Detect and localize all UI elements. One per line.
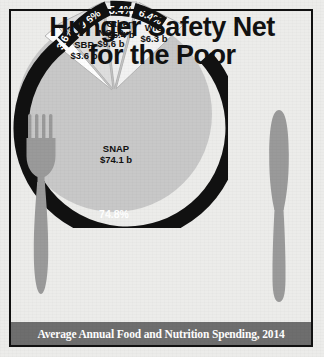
title-line-1: Hunger Safety Net: [0, 14, 324, 42]
knife-icon: [268, 108, 290, 304]
infographic-poster: Hunger Safety Net for the Poor: [0, 0, 324, 357]
footer-caption: Average Annual Food and Nutrition Spendi…: [37, 328, 284, 340]
title-line-2: for the Poor: [0, 42, 324, 70]
page-title: Hunger Safety Net for the Poor: [0, 14, 324, 69]
fork-icon: [24, 112, 58, 298]
footer-bar: Average Annual Food and Nutrition Spendi…: [11, 322, 311, 345]
